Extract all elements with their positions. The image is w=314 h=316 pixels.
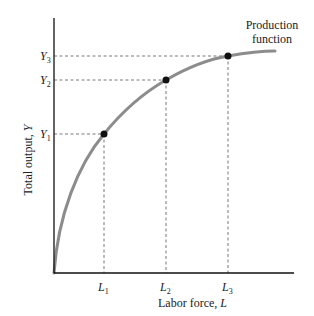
point-1 — [101, 131, 108, 138]
y-tick-Y3: Y3 — [40, 49, 51, 65]
y-tick-Y2: Y2 — [40, 73, 51, 89]
x-axis-title: Labor force, L — [158, 296, 227, 310]
x-tick-L2: L2 — [159, 280, 171, 296]
production-function-chart: Y3 Y2 Y1 L1 L2 L3 Labor force, L Total o… — [0, 0, 314, 316]
x-tick-L3: L3 — [221, 280, 233, 296]
curve-label-line2: function — [252, 32, 292, 46]
y-tick-Y1: Y1 — [40, 127, 51, 143]
guide-lines — [54, 56, 228, 273]
x-tick-L1: L1 — [97, 280, 109, 296]
point-2 — [163, 77, 170, 84]
production-curve — [54, 51, 275, 273]
y-axis-title: Total output, Y — [21, 123, 35, 195]
point-3 — [225, 53, 232, 60]
curve-label-line1: Production — [246, 18, 299, 32]
